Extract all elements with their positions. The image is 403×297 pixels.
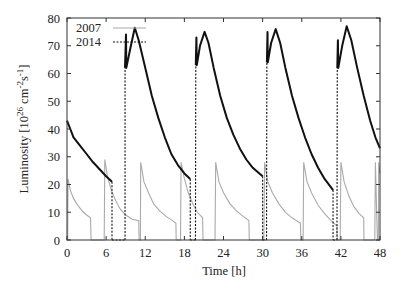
series-2014-line xyxy=(125,28,190,179)
series-layer xyxy=(67,26,380,240)
luminosity-chart: 061218243036424801020304050607080 2007 2… xyxy=(0,0,403,297)
x-tick-label: 24 xyxy=(217,246,230,260)
x-tick-label: 48 xyxy=(374,246,387,260)
y-tick-label: 30 xyxy=(48,150,61,164)
x-tick-label: 42 xyxy=(335,246,348,260)
plot-area-frame xyxy=(67,18,380,240)
y-tick-label: 40 xyxy=(48,123,61,137)
y-axis-title: Luminosity [1026 cm-2s-1] xyxy=(15,65,31,194)
y-tick-label: 50 xyxy=(48,95,61,109)
x-tick-label: 36 xyxy=(296,246,309,260)
legend-label-2014: 2014 xyxy=(76,35,102,49)
series-2014-line xyxy=(267,29,333,190)
series-2014-line xyxy=(337,26,380,148)
y-tick-label: 20 xyxy=(48,178,61,192)
x-tick-label: 6 xyxy=(103,246,109,260)
series-2007-line xyxy=(67,160,380,241)
x-tick-label: 0 xyxy=(64,246,70,260)
x-axis-title: Time [h] xyxy=(202,264,246,278)
x-tick-label: 30 xyxy=(256,246,269,260)
x-tick-label: 12 xyxy=(139,246,152,260)
x-tick-label: 18 xyxy=(178,246,191,260)
y-tick-label: 80 xyxy=(48,12,61,26)
y-tick-label: 10 xyxy=(48,206,61,220)
y-tick-label: 0 xyxy=(54,234,60,248)
y-tick-label: 60 xyxy=(48,67,61,81)
legend: 2007 2014 xyxy=(76,21,146,49)
series-2014-line xyxy=(196,32,263,176)
y-tick-label: 70 xyxy=(48,39,61,53)
legend-label-2007: 2007 xyxy=(76,21,101,35)
